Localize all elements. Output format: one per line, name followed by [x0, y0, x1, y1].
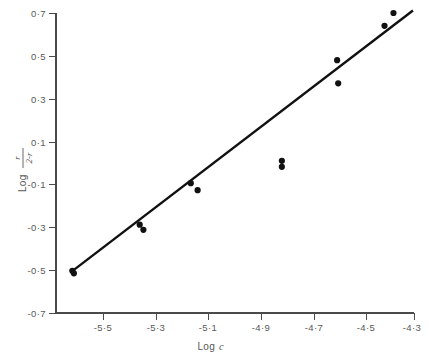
y-tick-label: -0·7 [28, 308, 47, 319]
x-tick-label: -4·9 [252, 322, 271, 333]
x-tick-label: -4·3 [403, 322, 422, 333]
x-tick-label: -4·7 [305, 322, 324, 333]
x-axis-title-prefix: Log [197, 341, 215, 352]
x-tick-label: -5·3 [147, 322, 166, 333]
x-tick-label: -5·5 [94, 322, 113, 333]
y-axis-ticks [49, 13, 56, 313]
y-tick-label: -0·5 [28, 265, 47, 276]
y-tick-label: 0·7 [31, 8, 46, 19]
y-axis-title-fraction: r 2-r [12, 148, 34, 168]
y-tick-label: 0·5 [31, 51, 46, 62]
fraction-numerator: r [12, 156, 22, 160]
data-point [335, 80, 341, 86]
x-axis-title-variable: c [219, 341, 224, 352]
x-axis-ticks [103, 313, 414, 320]
fraction-denominator: 2-r [24, 152, 34, 163]
data-point [390, 10, 396, 16]
x-tick-label: -5·1 [199, 322, 218, 333]
data-point [137, 222, 143, 228]
data-point [71, 270, 77, 276]
y-tick-label: -0·1 [28, 179, 47, 190]
x-tick-label: -4·5 [357, 322, 376, 333]
data-point [195, 187, 201, 193]
data-point [279, 158, 285, 164]
regression-fit-line [71, 10, 413, 271]
x-axis-tick-labels: -5·5 -5·3 -5·1 -4·9 -4·7 -4·5 -4·3 [94, 322, 422, 333]
scatter-plot-canvas: 0·7 0·5 0·3 0·1 -0·1 -0·3 -0·5 -0·7 -5·5… [0, 0, 428, 357]
data-point [140, 227, 146, 233]
data-point [381, 23, 387, 29]
y-tick-label: 0·1 [31, 137, 46, 148]
data-point [188, 180, 194, 186]
y-axis-title-prefix: Log [17, 174, 28, 192]
x-axis-title: Log c [197, 341, 224, 352]
figure-root: 0·7 0·5 0·3 0·1 -0·1 -0·3 -0·5 -0·7 -5·5… [0, 0, 428, 357]
data-point [334, 57, 340, 63]
y-tick-label: 0·3 [31, 94, 46, 105]
y-tick-label: -0·3 [28, 222, 47, 233]
data-point [279, 164, 285, 170]
